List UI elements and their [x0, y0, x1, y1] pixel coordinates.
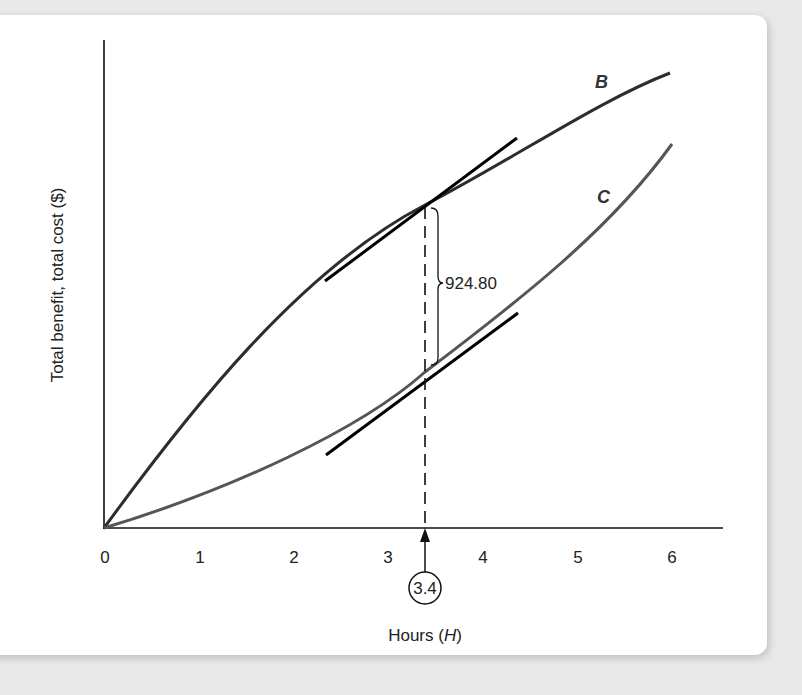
curve-b-label: B — [595, 72, 608, 92]
optimum-arrow-head — [420, 528, 430, 542]
x-tick-5: 5 — [573, 548, 582, 567]
gap-value-label: 924.80 — [445, 274, 497, 293]
x-axis-title: Hours (H) — [388, 626, 462, 645]
x-tick-labels: 0 1 2 3 4 5 6 — [100, 548, 676, 567]
tangent-line-c — [326, 313, 518, 455]
x-tick-3: 3 — [383, 548, 392, 567]
curve-c-total-cost — [104, 144, 672, 528]
x-tick-1: 1 — [195, 548, 204, 567]
curve-b-total-benefit — [104, 73, 670, 528]
y-axis-title: Total benefit, total cost ($) — [48, 188, 67, 383]
x-tick-2: 2 — [289, 548, 298, 567]
x-tick-0: 0 — [100, 548, 109, 567]
x-tick-6: 6 — [667, 548, 676, 567]
optimum-marker-label: 3.4 — [413, 579, 437, 598]
tangent-line-b — [325, 138, 517, 281]
curve-c-label: C — [597, 187, 611, 207]
x-tick-4: 4 — [478, 548, 487, 567]
gap-brace — [431, 208, 443, 365]
chart-svg: 0 1 2 3 4 5 6 Total benefit, total cost … — [0, 0, 802, 695]
